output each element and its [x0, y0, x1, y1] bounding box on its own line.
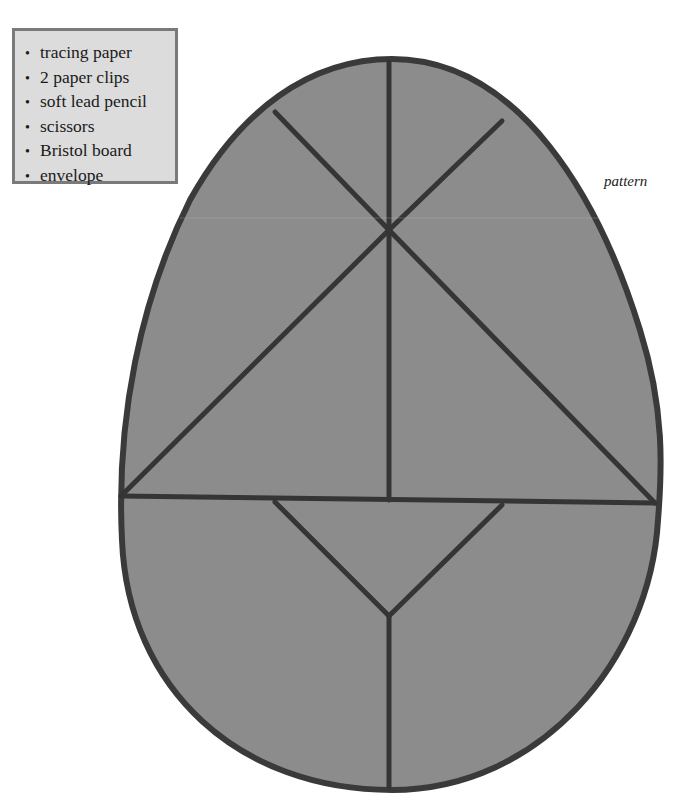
egg-tangram-pattern — [0, 0, 673, 805]
